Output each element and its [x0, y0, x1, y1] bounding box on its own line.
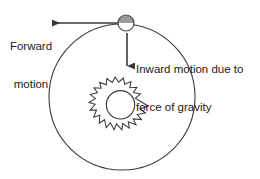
inward-motion-label-line1: Inward motion due to	[136, 63, 243, 76]
planet-body	[118, 15, 134, 31]
sun-disc	[106, 91, 134, 119]
forward-motion-label-line2: motion	[3, 78, 59, 91]
inward-motion-label-line2: force of gravity	[136, 101, 243, 114]
planet-disc	[118, 15, 134, 31]
forward-motion-label-line1: Forward	[3, 40, 59, 53]
forward-motion-label: Forward motion	[3, 15, 59, 115]
inward-motion-label: Inward motion due to force of gravity	[136, 38, 243, 138]
orbit-diagram-canvas: Forward motion Inward motion due to forc…	[0, 0, 260, 179]
